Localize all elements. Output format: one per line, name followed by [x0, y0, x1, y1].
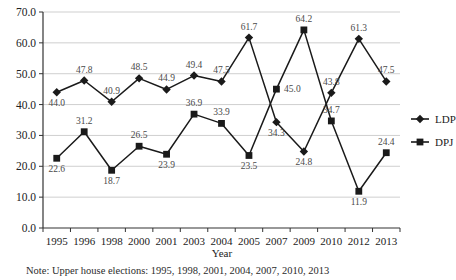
square-marker — [163, 151, 170, 158]
x-axis-tick-label: 2004 — [211, 235, 234, 247]
square-marker — [417, 139, 424, 146]
x-axis-tick-label: 2000 — [128, 235, 151, 247]
data-label: 44.0 — [48, 98, 65, 108]
data-label: 18.7 — [103, 176, 120, 186]
data-label: 43.8 — [323, 77, 340, 87]
data-label: 34.7 — [323, 105, 340, 115]
legend-label-dpj[interactable]: DPJ — [435, 136, 454, 148]
x-axis-tick-labels: 1995199619982000200120032004200520072009… — [46, 235, 398, 247]
x-axis-tick-label: 1995 — [46, 235, 69, 247]
x-axis-tick-label: 1996 — [73, 235, 96, 247]
data-label: 11.9 — [351, 197, 368, 207]
data-label: 44.9 — [158, 73, 175, 83]
square-marker — [300, 26, 307, 33]
chart-legend: LDPDPJ — [411, 113, 456, 148]
square-marker — [108, 167, 115, 174]
y-axis-tick-label: 50.0 — [16, 68, 36, 80]
x-axis-tick-label: 2007 — [265, 235, 288, 247]
diamond-marker — [217, 77, 225, 85]
data-label: 49.4 — [186, 60, 203, 70]
diamond-marker — [416, 115, 424, 123]
data-label: 36.9 — [186, 98, 203, 108]
x-axis-tick-label: 1998 — [101, 235, 124, 247]
diamond-marker — [162, 85, 170, 93]
y-axis-tick-label: 30.0 — [16, 129, 36, 141]
line-chart: 0.010.020.030.040.050.060.070.0 19951996… — [0, 0, 456, 262]
data-label: 24.4 — [378, 137, 395, 147]
x-axis-tick-label: 2001 — [156, 235, 178, 247]
data-label: 23.9 — [158, 160, 175, 170]
diamond-marker — [53, 88, 61, 96]
chart-note: Note: Upper house elections: 1995, 1998,… — [26, 264, 446, 277]
square-marker — [136, 143, 143, 150]
data-label: 33.9 — [213, 107, 230, 117]
x-axis-tick-label: 2005 — [238, 235, 261, 247]
data-label: 40.9 — [103, 86, 120, 96]
data-label: 47.5 — [213, 65, 230, 75]
diamond-marker — [355, 35, 363, 43]
y-axis-tick-labels: 0.010.020.030.040.050.060.070.0 — [16, 6, 36, 234]
y-axis-tick-label: 10.0 — [16, 191, 36, 203]
x-axis-title: Year — [212, 247, 233, 259]
square-marker — [53, 155, 60, 162]
chart-container: 0.010.020.030.040.050.060.070.0 19951996… — [0, 0, 456, 280]
data-label: 22.6 — [48, 164, 65, 174]
data-label: 24.8 — [296, 157, 313, 167]
square-marker — [246, 152, 253, 159]
data-label: 48.5 — [131, 62, 148, 72]
data-label: 23.5 — [241, 161, 258, 171]
diamond-marker — [327, 89, 335, 97]
diamond-marker — [382, 77, 390, 85]
y-axis-tick-label: 20.0 — [16, 160, 36, 172]
x-axis-ticks — [43, 228, 400, 232]
legend-label-ldp[interactable]: LDP — [435, 113, 456, 125]
data-label: 45.0 — [284, 84, 301, 94]
diamond-marker — [245, 33, 253, 41]
data-label: 47.8 — [76, 65, 93, 75]
square-marker — [81, 128, 88, 135]
x-axis-tick-label: 2009 — [293, 235, 316, 247]
square-marker — [273, 86, 280, 93]
y-axis-tick-label: 70.0 — [16, 6, 36, 18]
data-label: 61.7 — [241, 22, 258, 32]
square-marker — [328, 118, 335, 125]
data-label: 31.2 — [76, 116, 93, 126]
square-marker — [191, 111, 198, 118]
y-axis-tick-label: 0.0 — [22, 222, 37, 234]
data-label: 26.5 — [131, 130, 148, 140]
x-axis-tick-label: 2010 — [320, 235, 343, 247]
data-label: 64.2 — [296, 14, 313, 24]
y-axis-tick-label: 40.0 — [16, 99, 36, 111]
x-axis-tick-label: 2012 — [348, 235, 370, 247]
y-axis-tick-label: 60.0 — [16, 37, 36, 49]
x-axis-tick-label: 2003 — [183, 235, 206, 247]
diamond-marker — [190, 71, 198, 79]
data-label: 47.5 — [378, 65, 395, 75]
square-marker — [355, 188, 362, 195]
square-marker — [218, 120, 225, 127]
square-marker — [383, 149, 390, 156]
data-label: 34.3 — [268, 128, 285, 138]
data-label: 61.3 — [350, 23, 367, 33]
x-axis-tick-label: 2013 — [375, 235, 398, 247]
